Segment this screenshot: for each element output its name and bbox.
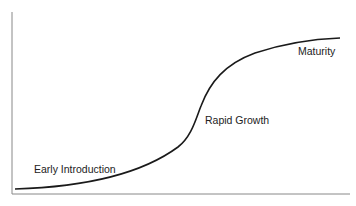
s-curve-diagram (0, 0, 356, 206)
label-rapid-growth: Rapid Growth (205, 114, 269, 126)
label-early-introduction: Early Introduction (34, 163, 116, 175)
label-maturity: Maturity (298, 45, 335, 57)
